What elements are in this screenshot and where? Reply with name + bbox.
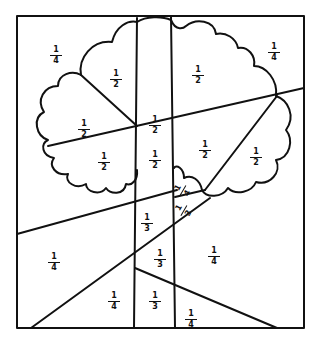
- fraction-label-crown-left-lower: 12: [96, 153, 112, 172]
- numerator: 1: [183, 310, 199, 318]
- fraction-label-crown-left-mid: 12: [76, 120, 92, 139]
- numerator: 1: [197, 141, 213, 149]
- denominator: 2: [76, 131, 92, 139]
- denominator: 2: [108, 81, 124, 89]
- trunk-right-line: [171, 16, 175, 328]
- numerator: 1: [248, 148, 264, 156]
- numerator: 1: [147, 116, 163, 124]
- tree-crown-outline: [37, 17, 291, 196]
- numerator: 1: [152, 250, 168, 258]
- numerator: 1: [106, 292, 122, 300]
- fraction-label-top-left: 14: [48, 46, 64, 65]
- numerator: 1: [76, 120, 92, 128]
- fraction-label-right-lower: 14: [206, 247, 222, 266]
- denominator: 2: [147, 162, 163, 170]
- numerator: 1: [48, 46, 64, 54]
- fraction-label-bottom-center-left: 14: [106, 292, 122, 311]
- denominator: 4: [106, 303, 122, 311]
- fraction-label-trunk-lower-a: 13: [139, 214, 155, 233]
- numerator: 1: [139, 214, 155, 222]
- fraction-label-crown-right-center: 12: [197, 141, 213, 160]
- denominator: 3: [147, 303, 163, 311]
- denominator: 4: [266, 54, 282, 62]
- denominator: 4: [48, 57, 64, 65]
- fraction-label-trunk-mid: 12: [147, 151, 163, 170]
- denominator: 3: [139, 225, 155, 233]
- denominator: 4: [183, 321, 199, 329]
- numerator: 1: [266, 43, 282, 51]
- fraction-label-bottom-left: 14: [46, 253, 62, 272]
- numerator: 1: [108, 70, 124, 78]
- numerator: 1: [206, 247, 222, 255]
- denominator: 3: [152, 261, 168, 269]
- fraction-label-bottom-right: 14: [183, 310, 199, 329]
- crown-right-divider: [205, 96, 277, 190]
- fraction-label-crown-left-upper: 12: [108, 70, 124, 89]
- fraction-label-trunk-top: 12: [147, 116, 163, 135]
- numerator: 1: [46, 253, 62, 261]
- fraction-label-top-right: 14: [266, 43, 282, 62]
- denominator: 4: [206, 258, 222, 266]
- numerator: 1: [190, 66, 206, 74]
- fraction-label-trunk-bottom: 13: [147, 292, 163, 311]
- denominator: 2: [96, 164, 112, 172]
- numerator: 1: [96, 153, 112, 161]
- fraction-label-crown-right-upper: 12: [190, 66, 206, 85]
- fraction-label-crown-right-lower: 12: [248, 148, 264, 167]
- denominator: 4: [46, 264, 62, 272]
- denominator: 2: [248, 159, 264, 167]
- numerator: 1: [147, 292, 163, 300]
- denominator: 2: [147, 127, 163, 135]
- denominator: 2: [197, 152, 213, 160]
- denominator: 2: [190, 77, 206, 85]
- fraction-label-trunk-lower-b: 13: [152, 250, 168, 269]
- numerator: 1: [147, 151, 163, 159]
